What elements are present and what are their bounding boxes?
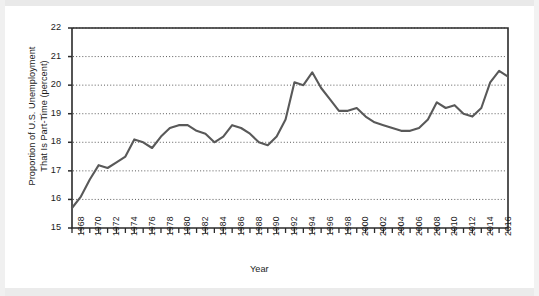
x-tick-label: 2014 [485, 216, 495, 236]
x-tick-label: 2010 [449, 216, 459, 236]
axis-frame [72, 28, 508, 228]
data-series-line [72, 71, 508, 208]
x-tick-label: 1984 [218, 216, 228, 236]
x-tick-label: 1990 [271, 216, 281, 236]
x-tick-label: 1974 [129, 216, 139, 236]
x-tick-label: 1998 [343, 216, 353, 236]
y-tick-label: 21 [41, 51, 61, 61]
x-tick-label: 2012 [467, 216, 477, 236]
y-tick-label: 18 [41, 136, 61, 146]
y-tick-label: 16 [41, 193, 61, 203]
x-tick-label: 2002 [378, 216, 388, 236]
x-tick-label: 1982 [200, 216, 210, 236]
y-tick-label: 22 [41, 22, 61, 32]
x-tick-label: 1972 [111, 216, 121, 236]
x-tick-label: 1980 [182, 216, 192, 236]
x-tick-label: 2006 [414, 216, 424, 236]
x-tick-label: 2008 [432, 216, 442, 236]
x-tick-label: 1996 [325, 216, 335, 236]
x-tick-label: 2004 [396, 216, 406, 236]
y-tick-label: 17 [41, 165, 61, 175]
x-tick-label: 2000 [360, 216, 370, 236]
figure-canvas: Proportion of U.S. Unemployment That Is … [0, 0, 539, 296]
x-tick-label: 1986 [236, 216, 246, 236]
y-tick-label: 19 [41, 108, 61, 118]
x-tick-label: 1994 [307, 216, 317, 236]
x-tick-label: 2016 [503, 216, 513, 236]
y-tick-label: 20 [41, 79, 61, 89]
x-tick-label: 1988 [254, 216, 264, 236]
x-tick-label: 1970 [93, 216, 103, 236]
gridlines-group [73, 28, 507, 199]
x-tick-label: 1978 [165, 216, 175, 236]
x-tick-label: 1992 [289, 216, 299, 236]
y-tick-label: 15 [41, 222, 61, 232]
line-chart-plot [0, 0, 539, 296]
x-tick-label: 1976 [147, 216, 157, 236]
x-tick-label: 1968 [76, 216, 86, 236]
